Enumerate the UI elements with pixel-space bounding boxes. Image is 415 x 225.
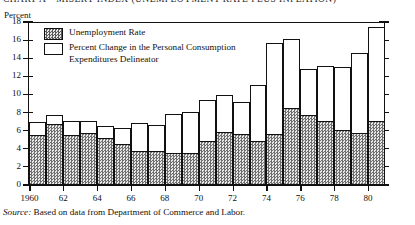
bar-segment-unemployment [283,108,300,185]
bar-segment-inflation [131,123,148,151]
bar-segment-inflation [216,95,233,132]
bar-segment-unemployment [266,134,283,185]
bar-segment-unemployment [300,115,317,185]
y-axis-tick-label: 14 [1,53,21,62]
bar-segment-inflation [63,121,80,137]
y-axis-tick-label: 2 [1,162,21,171]
legend-label: Unemployment Rate [69,27,145,39]
bar-segment-inflation [266,43,283,136]
y-axis-tick-label: 8 [1,108,21,117]
x-axis-tick [368,185,369,191]
bar-segment-inflation [114,128,131,145]
x-axis-tick [233,185,234,191]
y-axis-tick-label: 16 [1,35,21,44]
bar-1964 [97,126,114,185]
x-axis-tick [165,185,166,191]
x-axis-tick [131,185,132,191]
x-axis-tick-label: 80 [353,193,383,203]
y-axis-tick-label: 18 [1,17,21,26]
x-axis-tick-label: 78 [319,193,349,203]
y-axis-tick-label: 12 [1,71,21,80]
bar-segment-unemployment [233,134,250,185]
y-axis-tick-label: 0 [1,180,21,189]
bar-1974 [266,43,283,185]
bar-1971 [216,95,233,185]
bar-segment-inflation [250,85,267,141]
x-axis-tick [266,185,267,191]
chart-figure: CHART A—MISERY INDEX (UNEMPLOYMENT RATE … [0,0,415,225]
bar-segment-unemployment [97,138,114,185]
x-axis-tick-label: 70 [184,193,214,203]
bar-segment-inflation [233,102,250,136]
x-axis-tick [199,185,200,191]
x-axis-tick-label: 64 [82,193,112,203]
bar-segment-inflation [29,122,46,137]
bar-segment-inflation [351,53,368,134]
x-axis-tick [334,185,335,191]
bar-1967 [148,125,165,185]
bar-segment-unemployment [250,141,267,185]
y-axis-tick [23,40,33,41]
y-axis-tick-right [379,21,389,22]
bar-segment-inflation [199,100,216,142]
bar-segment-unemployment [199,141,216,185]
bar-segment-inflation [97,126,114,139]
x-axis-tick [63,185,64,191]
source-text: Based on data from Department of Commerc… [31,207,245,217]
bar-segment-inflation [334,67,351,131]
bar-segment-unemployment [80,133,97,185]
legend-item-pce-delineator: Percent Change in the Personal Consumpti… [44,42,236,65]
bar-segment-unemployment [114,144,131,185]
x-axis-tick-label: 68 [150,193,180,203]
y-axis-tick-label: 6 [1,126,21,135]
bar-segment-unemployment [46,124,63,185]
bar-segment-inflation [283,39,300,109]
x-axis-tick [300,185,301,191]
plot-top-rule [28,22,385,23]
bar-segment-unemployment [182,153,199,185]
y-axis-tick-label: 4 [1,144,21,153]
x-axis-tick-label: 76 [285,193,315,203]
bar-segment-unemployment [216,132,233,185]
legend-item-unemployment-rate: Unemployment Rate [44,27,236,40]
bar-1966 [131,123,148,185]
bar-segment-inflation [148,125,165,151]
y-axis-tick [23,112,33,113]
source-note: Source: Based on data from Department of… [3,207,245,217]
bar-1976 [300,69,317,185]
bar-1963 [80,121,97,185]
bar-segment-unemployment [131,151,148,185]
bar-segment-inflation [80,121,97,135]
bar-segment-inflation [317,66,334,121]
y-axis-tick-label: 10 [1,89,21,98]
bar-segment-inflation [46,115,63,125]
bar-1968 [165,114,182,185]
y-axis-tick [23,21,33,22]
bar-1970 [199,100,216,185]
bar-segment-unemployment [148,151,165,185]
bar-1977 [317,66,334,185]
bar-segment-unemployment [317,121,334,185]
bar-segment-unemployment [334,130,351,185]
x-axis-tick-label: 74 [251,193,281,203]
source-prefix: Source: [3,207,31,217]
bar-1972 [233,102,250,185]
bar-1980 [368,27,385,185]
y-axis-tick [23,76,33,77]
y-axis-tick [23,58,33,59]
bar-1965 [114,128,131,185]
x-axis-tick-label: 72 [218,193,248,203]
bar-segment-unemployment [63,135,80,185]
bar-segment-unemployment [165,152,182,185]
x-axis-tick [97,185,98,191]
bar-segment-unemployment [351,132,368,185]
bar-segment-inflation [165,114,182,153]
dotted-pattern-swatch-icon [44,28,63,40]
bar-1969 [182,112,199,185]
x-axis-tick-label: 66 [116,193,146,203]
x-axis-tick-label: 62 [48,193,78,203]
bar-1979 [351,53,368,185]
bar-segment-unemployment [29,135,46,185]
bar-segment-inflation [368,27,385,122]
bar-1960 [29,122,46,185]
